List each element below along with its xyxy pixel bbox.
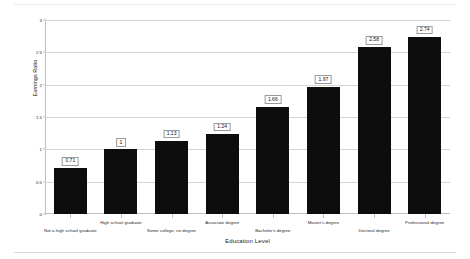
- bar-group[interactable]: 1: [96, 20, 147, 214]
- x-tick-mark: [172, 214, 173, 218]
- bar[interactable]: [206, 134, 239, 214]
- x-tick-mark: [273, 214, 274, 218]
- y-tick-label: 3: [40, 18, 42, 23]
- x-tick-mark: [425, 214, 426, 218]
- y-tick-label: 2: [40, 82, 42, 87]
- plot-area: 00.511.522.53 0.7111.131.241.661.972.582…: [45, 20, 450, 214]
- bar[interactable]: [358, 47, 391, 214]
- bar[interactable]: [408, 37, 441, 214]
- x-category-label: Master's degree: [308, 220, 339, 225]
- y-tick-label: 2.5: [36, 50, 42, 55]
- bar-value-label: 2.58: [366, 36, 383, 45]
- y-tick-label: 1: [40, 147, 42, 152]
- x-category-label: Professional degree: [405, 220, 444, 225]
- earnings-ratio-bar-chart: Earnings Ratio 00.511.522.53 0.7111.131.…: [0, 0, 470, 259]
- bar-value-label: 1: [116, 138, 126, 147]
- bar-group[interactable]: 0.71: [45, 20, 96, 214]
- bar-value-label: 1.24: [214, 123, 231, 132]
- figure-bottom-rule: [14, 252, 456, 253]
- bar-group[interactable]: 2.58: [349, 20, 400, 214]
- y-tick-label: 1.5: [36, 115, 42, 120]
- x-category-label: Some college, no degree: [147, 228, 196, 233]
- bar-group[interactable]: 1.24: [197, 20, 248, 214]
- y-tick-label: 0: [40, 212, 42, 217]
- bar-group[interactable]: 1.97: [298, 20, 349, 214]
- bar[interactable]: [104, 149, 137, 214]
- bar-group[interactable]: 1.13: [146, 20, 197, 214]
- x-tick-mark: [70, 214, 71, 218]
- x-tick-mark: [222, 214, 223, 218]
- x-tick-mark: [323, 214, 324, 218]
- bar-group[interactable]: 2.74: [399, 20, 450, 214]
- y-tick-label: 0.5: [36, 179, 42, 184]
- x-category-label: Doctoral degree: [358, 228, 389, 233]
- bar-group[interactable]: 1.66: [248, 20, 299, 214]
- x-category-label: Associate degree: [205, 220, 239, 225]
- x-category-label: Bachelor's degree: [255, 228, 290, 233]
- x-tick-mark: [121, 214, 122, 218]
- bar[interactable]: [307, 87, 340, 214]
- bar-value-label: 2.74: [416, 26, 433, 35]
- bar-value-label: 1.97: [315, 75, 332, 84]
- x-category-label: Not a high school graduate: [44, 228, 97, 233]
- x-tick-mark: [374, 214, 375, 218]
- bar-value-label: 1.66: [264, 95, 281, 104]
- bar-value-label: 0.71: [62, 157, 79, 166]
- x-axis-title: Education Level: [45, 238, 450, 244]
- x-category-label: High school graduate: [100, 220, 142, 225]
- bar-value-label: 1.13: [163, 130, 180, 139]
- y-axis-title: Earnings Ratio: [32, 8, 38, 148]
- bar[interactable]: [256, 107, 289, 214]
- figure-top-rule: [14, 4, 456, 5]
- bar[interactable]: [155, 141, 188, 214]
- bar[interactable]: [54, 168, 87, 214]
- bars: 0.7111.131.241.661.972.582.74: [45, 20, 450, 214]
